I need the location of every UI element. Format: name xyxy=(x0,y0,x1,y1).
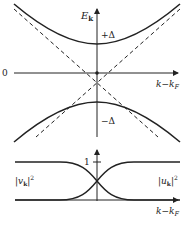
bcs-diagram: Ek +Δ −Δ 0 k−kF 1 |vk|2 |uk|2 k−kF xyxy=(0,0,186,225)
energy-axis-label: Ek xyxy=(80,10,93,23)
momentum-axis-label: k−kF xyxy=(156,79,179,91)
v-squared-label: |vk|2 xyxy=(15,174,34,187)
tick-one-label: 1 xyxy=(84,157,90,167)
origin-dot xyxy=(95,71,99,75)
gap-plus-label: +Δ xyxy=(101,30,116,40)
dispersion-panel: Ek +Δ −Δ 0 k−kF xyxy=(2,4,180,142)
u-squared-label: |uk|2 xyxy=(158,174,178,187)
origin-label: 0 xyxy=(2,68,8,78)
gap-minus-label: −Δ xyxy=(101,116,116,126)
coherence-x-axis-label: k−kF xyxy=(156,206,179,218)
coherence-factor-panel: 1 |vk|2 |uk|2 k−kF xyxy=(15,150,180,218)
